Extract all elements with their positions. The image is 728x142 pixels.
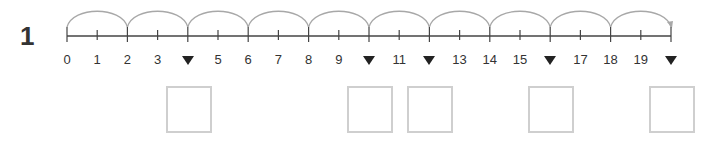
number-line — [0, 0, 728, 80]
tick-label: 3 — [143, 52, 173, 68]
jump-arc — [188, 11, 248, 27]
answer-box[interactable] — [347, 86, 393, 133]
tick-marks — [67, 27, 671, 42]
tick-label: 8 — [294, 52, 324, 68]
tick-label: 1 — [82, 52, 112, 68]
hidden-value-marker-icon — [182, 56, 194, 65]
tick-label: 14 — [475, 52, 505, 68]
answer-box[interactable] — [649, 86, 695, 133]
jump-arc — [309, 11, 369, 27]
answer-box[interactable] — [528, 86, 574, 133]
jump-arcs — [67, 11, 673, 28]
jump-arc — [369, 11, 429, 27]
hidden-value-marker-icon — [665, 56, 677, 65]
jump-arc — [429, 11, 489, 27]
tick-label: 11 — [384, 52, 414, 68]
tick-label: 5 — [203, 52, 233, 68]
tick-label: 9 — [324, 52, 354, 68]
answer-box[interactable] — [166, 86, 212, 133]
tick-label: 2 — [112, 52, 142, 68]
tick-label: 13 — [445, 52, 475, 68]
tick-label: 18 — [596, 52, 626, 68]
jump-arc — [611, 11, 671, 27]
tick-label: 0 — [52, 52, 82, 68]
answer-box[interactable] — [407, 86, 453, 133]
hidden-value-marker-icon — [544, 56, 556, 65]
tick-label: 7 — [263, 52, 293, 68]
tick-label: 15 — [505, 52, 535, 68]
jump-arc — [67, 11, 127, 27]
tick-label: 19 — [626, 52, 656, 68]
hidden-value-marker-icon — [423, 56, 435, 65]
jump-arc — [248, 11, 308, 27]
arrowhead-icon — [667, 21, 673, 28]
jump-arc — [490, 11, 550, 27]
jump-arc — [127, 11, 187, 27]
tick-label: 6 — [233, 52, 263, 68]
jump-arc — [550, 11, 610, 27]
hidden-value-marker-icon — [363, 56, 375, 65]
tick-label: 17 — [565, 52, 595, 68]
